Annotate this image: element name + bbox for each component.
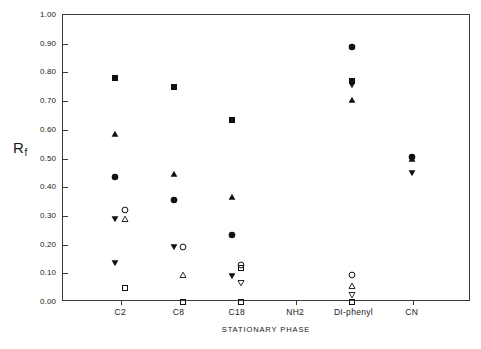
data-point-filled-down-triangle bbox=[170, 243, 178, 251]
y-axis-tick-label: 0.20 bbox=[24, 239, 56, 248]
x-axis-tick-mark bbox=[413, 300, 414, 305]
data-point-open-up-triangle bbox=[348, 282, 356, 290]
data-point-open-square bbox=[349, 299, 356, 306]
y-axis-tick-label: 0.00 bbox=[24, 297, 56, 306]
data-point-open-square bbox=[121, 284, 128, 291]
data-point-filled-down-triangle bbox=[228, 272, 236, 280]
y-axis-tick-labels: 0.000.100.200.300.400.500.600.700.800.90… bbox=[24, 0, 56, 349]
y-axis-tick-mark bbox=[63, 159, 68, 160]
data-point-open-down-triangle bbox=[237, 279, 245, 287]
plot-area bbox=[62, 14, 470, 301]
y-axis-tick-label: 0.30 bbox=[24, 210, 56, 219]
data-point-filled-square bbox=[170, 83, 177, 90]
y-axis-tick-mark bbox=[63, 130, 68, 131]
y-axis-tick-mark bbox=[63, 187, 68, 188]
y-axis-tick-label: 0.40 bbox=[24, 182, 56, 191]
data-point-filled-square bbox=[229, 116, 236, 123]
data-point-filled-circle bbox=[170, 196, 178, 204]
data-point-filled-up-triangle bbox=[228, 193, 236, 201]
y-axis-tick-label: 0.60 bbox=[24, 124, 56, 133]
data-point-filled-up-triangle bbox=[348, 96, 356, 104]
data-point-open-square bbox=[238, 299, 245, 306]
y-axis-tick-label: 0.80 bbox=[24, 67, 56, 76]
x-axis-tick-label-cn: CN bbox=[405, 307, 418, 317]
y-axis-tick-mark bbox=[63, 44, 68, 45]
scatter-chart-figure: Rf 0.000.100.200.300.400.500.600.700.800… bbox=[0, 0, 481, 349]
y-axis-tick-label: 0.10 bbox=[24, 268, 56, 277]
y-axis-tick-label: 0.70 bbox=[24, 96, 56, 105]
data-point-filled-down-triangle bbox=[408, 169, 416, 177]
data-point-open-circle bbox=[121, 206, 129, 214]
y-axis-tick-label: 1.00 bbox=[24, 10, 56, 19]
y-axis-tick-mark bbox=[63, 273, 68, 274]
data-point-filled-square bbox=[112, 75, 119, 82]
data-point-filled-circle bbox=[408, 153, 416, 161]
y-axis-title-base: R bbox=[13, 139, 24, 156]
data-point-open-circle bbox=[179, 243, 187, 251]
y-axis-tick-mark bbox=[63, 245, 68, 246]
data-point-filled-down-triangle bbox=[348, 81, 356, 89]
x-axis-title: STATIONARY PHASE bbox=[62, 325, 470, 334]
data-point-open-square bbox=[238, 264, 245, 271]
data-point-filled-down-triangle bbox=[111, 259, 119, 267]
data-point-filled-down-triangle bbox=[111, 215, 119, 223]
data-point-open-up-triangle bbox=[121, 215, 129, 223]
data-point-open-square bbox=[180, 299, 187, 306]
x-axis-tick-label-di-phenyl: DI-phenyl bbox=[334, 307, 373, 317]
y-axis-tick-label: 0.50 bbox=[24, 153, 56, 162]
data-point-filled-up-triangle bbox=[170, 170, 178, 178]
x-axis-tick-labels: C2C8C18NH2DI-phenylCN bbox=[62, 307, 470, 321]
y-axis-tick-mark bbox=[63, 101, 68, 102]
x-axis-tick-label-c8: C8 bbox=[173, 307, 184, 317]
x-axis-tick-mark bbox=[121, 300, 122, 305]
data-point-filled-circle bbox=[228, 231, 236, 239]
data-point-open-up-triangle bbox=[179, 271, 187, 279]
y-axis-tick-mark bbox=[63, 72, 68, 73]
data-point-open-circle bbox=[348, 271, 356, 279]
data-point-filled-up-triangle bbox=[111, 130, 119, 138]
data-point-filled-circle bbox=[348, 43, 356, 51]
y-axis-tick-label: 0.90 bbox=[24, 38, 56, 47]
x-axis-tick-label-c2: C2 bbox=[115, 307, 126, 317]
y-axis-tick-mark bbox=[63, 216, 68, 217]
data-point-filled-circle bbox=[111, 173, 119, 181]
x-axis-tick-mark bbox=[296, 300, 297, 305]
x-axis-tick-label-nh2: NH2 bbox=[286, 307, 304, 317]
x-axis-tick-label-c18: C18 bbox=[229, 307, 246, 317]
